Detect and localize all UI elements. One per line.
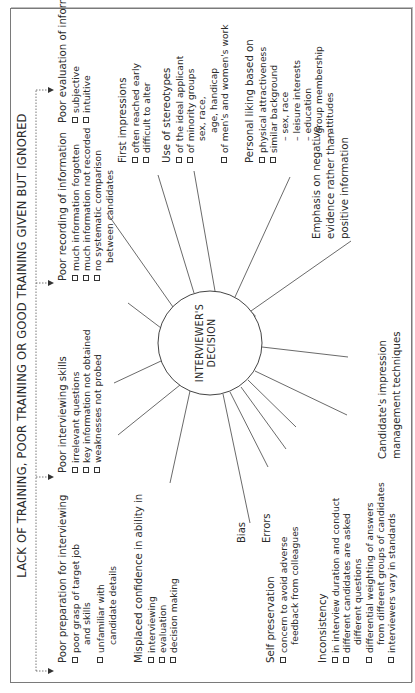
factor-poor-preparation: Poor preparation for interviewing poor g… bbox=[56, 495, 118, 663]
factor-bias: Bias bbox=[236, 522, 247, 543]
factor-impression-management: Candidate's impression management techni… bbox=[376, 331, 404, 459]
factor-poor-recording: Poor recording of information much infor… bbox=[56, 128, 115, 281]
factor-poor-interviewing-skills: Poor interviewing skills irrelevant ques… bbox=[56, 330, 104, 473]
factor-inconsistency: Inconsistency in interview duration and … bbox=[316, 482, 397, 663]
factor-first-impressions: First impressions often reached early di… bbox=[116, 63, 152, 163]
factor-negative-emphasis: Emphasis on negative evidence rather tha… bbox=[310, 126, 352, 239]
factor-misplaced-confidence: Misplaced confidence in ability in inter… bbox=[132, 494, 180, 663]
center-label: INTERVIEWER'S DECISION bbox=[194, 291, 218, 395]
factor-self-preservation: Self preservation concern to avoid adver… bbox=[264, 526, 300, 663]
diagram-canvas: LACK OF TRAINING, POOR TRAINING OR GOOD … bbox=[10, 8, 412, 683]
factor-poor-evaluation: Poor evaluation of information subjectiv… bbox=[56, 0, 92, 123]
factor-stereotypes: Use of stereotypes of the ideal applican… bbox=[160, 24, 230, 163]
